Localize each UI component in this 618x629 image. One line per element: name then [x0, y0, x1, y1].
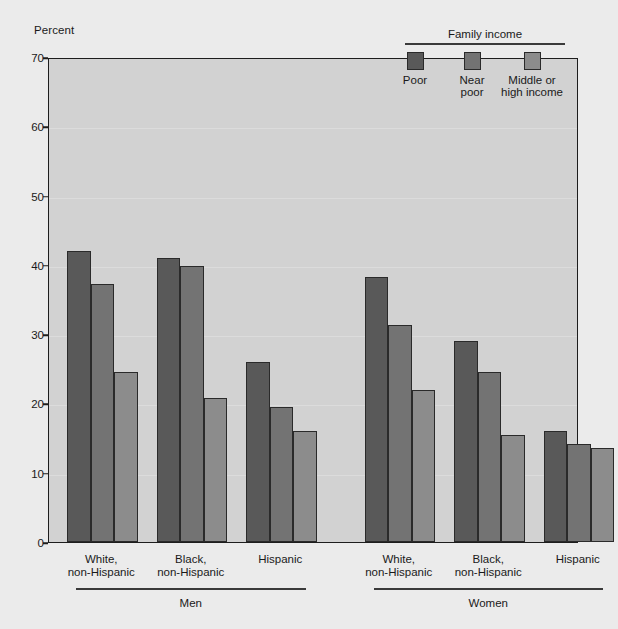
bar-women-2-0	[544, 431, 568, 542]
x-category-label-men-2: Hispanic	[225, 553, 335, 566]
gridline-30	[49, 336, 577, 337]
plot-inner	[49, 59, 577, 542]
bar-men-2-0	[246, 362, 270, 542]
legend-divider	[405, 43, 565, 45]
y-tick-label-70: 70	[4, 52, 44, 64]
bar-women-0-2	[412, 390, 436, 542]
legend-title: Family income	[405, 28, 565, 40]
y-axis-title: Percent	[34, 24, 74, 36]
legend-item-2[interactable]: Middle or high income	[497, 52, 567, 99]
y-tick-label-0: 0	[4, 537, 44, 549]
x-category-label-women-2: Hispanic	[523, 553, 618, 566]
bar-women-2-1	[567, 444, 591, 542]
legend-items: PoorNear poorMiddle or high income	[405, 52, 565, 108]
legend-swatch-2	[524, 52, 541, 70]
bar-women-1-0	[454, 341, 478, 542]
panel-rule-men	[76, 588, 306, 590]
bar-women-2-2	[591, 448, 615, 542]
plot-area	[48, 58, 578, 543]
gridline-50	[49, 198, 577, 199]
y-tick-label-10: 10	[4, 468, 44, 480]
bar-men-1-0	[157, 258, 181, 542]
bar-men-2-2	[293, 431, 317, 542]
bar-men-0-1	[91, 284, 115, 542]
panel-label-men: Men	[131, 597, 251, 609]
y-tick-label-20: 20	[4, 398, 44, 410]
bar-men-1-1	[180, 266, 204, 542]
y-tick-label-40: 40	[4, 260, 44, 272]
bar-men-0-2	[114, 372, 138, 542]
bar-women-0-1	[388, 325, 412, 542]
bar-men-2-1	[270, 407, 294, 542]
legend: Family income PoorNear poorMiddle or hig…	[405, 28, 565, 108]
panel-rule-women	[374, 588, 604, 590]
bar-men-1-2	[204, 398, 228, 542]
legend-label-2: Middle or high income	[497, 74, 567, 99]
y-tick-label-50: 50	[4, 191, 44, 203]
gridline-40	[49, 267, 577, 268]
bar-men-0-0	[67, 251, 91, 542]
legend-swatch-1	[464, 52, 481, 70]
y-tick-label-60: 60	[4, 121, 44, 133]
bar-women-1-1	[478, 372, 502, 542]
bar-women-0-0	[365, 277, 389, 542]
bar-women-1-2	[501, 435, 525, 542]
gridline-60	[49, 128, 577, 129]
legend-swatch-0	[407, 52, 424, 70]
panel-label-women: Women	[428, 597, 548, 609]
y-tick-label-30: 30	[4, 329, 44, 341]
